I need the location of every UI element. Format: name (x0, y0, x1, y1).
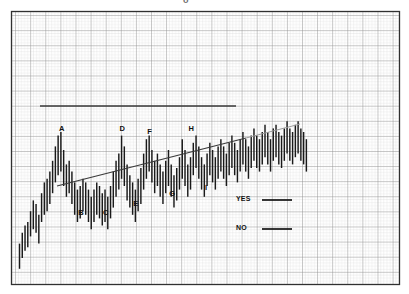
legend-item-yes-label: YES (236, 195, 251, 203)
point-label-a: A (59, 125, 64, 133)
legend-item-no-label: NO (236, 224, 247, 232)
point-label-d: D (120, 125, 125, 133)
chart-figure: o ABC (0, 0, 409, 294)
point-label-g: G (169, 190, 175, 198)
point-label-f: F (147, 128, 152, 136)
point-label-b: B (78, 209, 83, 217)
chart-canvas (0, 0, 409, 294)
point-label-e: E (133, 200, 138, 208)
point-label-c: C (103, 209, 108, 217)
point-label-h: H (189, 125, 194, 133)
point-label-i: I (205, 184, 207, 192)
